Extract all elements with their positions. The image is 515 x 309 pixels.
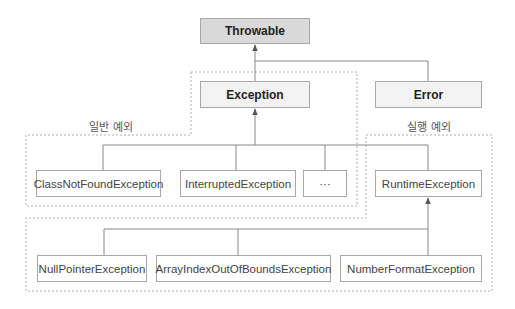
exception-connectors bbox=[103, 109, 428, 170]
runtime-connectors bbox=[104, 198, 428, 255]
array-index-out-of-bounds-exception-node: ArrayIndexOutOfBoundsException bbox=[156, 255, 331, 282]
ellipsis-node: ··· bbox=[303, 170, 347, 197]
exception-node: Exception bbox=[200, 81, 310, 108]
error-node: Error bbox=[375, 81, 482, 108]
runtime-exception-node: RuntimeException bbox=[375, 170, 482, 197]
class-not-found-exception-node: ClassNotFoundException bbox=[36, 170, 161, 197]
throwable-node: Throwable bbox=[200, 18, 310, 44]
null-pointer-exception-node: NullPointerException bbox=[37, 255, 147, 282]
interrupted-exception-node: InterruptedException bbox=[180, 170, 296, 197]
runtime-exception-group-label: 실행 예외 bbox=[407, 118, 450, 134]
general-exception-group-label: 일반 예외 bbox=[89, 118, 132, 134]
number-format-exception-node: NumberFormatException bbox=[340, 255, 482, 282]
throwable-connectors bbox=[255, 45, 428, 81]
